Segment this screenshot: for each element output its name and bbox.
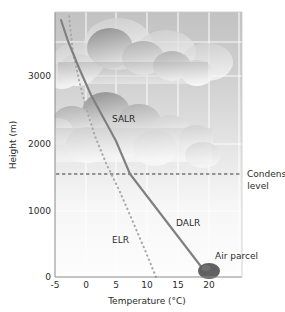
x-tick-10: 10 — [141, 280, 153, 290]
air-parcel-label: Air parcel — [215, 251, 258, 261]
condensation-label-line1: Condensation — [247, 169, 285, 179]
y-tick-2000: 2000 — [28, 139, 51, 149]
x-tick-0: 0 — [83, 280, 89, 290]
salr-label: SALR — [112, 114, 135, 124]
x-axis-title: Temperature (°C) — [107, 296, 186, 306]
lapse-rate-chart: 3000 2000 1000 0 -5 0 5 10 15 20 Tempera… — [0, 0, 285, 312]
elr-label: ELR — [112, 235, 129, 245]
x-tick-5: 5 — [113, 280, 119, 290]
x-tick-labels: -5 0 5 10 15 20 — [51, 280, 215, 290]
condensation-label-line2: level — [247, 181, 268, 191]
y-tick-3000: 3000 — [28, 71, 51, 81]
dalr-label: DALR — [176, 218, 200, 228]
y-axis-title: Height (m) — [8, 121, 18, 169]
y-tick-1000: 1000 — [28, 206, 51, 216]
x-tick-minus5: -5 — [51, 280, 60, 290]
y-tick-labels: 3000 2000 1000 0 — [28, 71, 51, 282]
x-tick-15: 15 — [172, 280, 183, 290]
x-tick-20: 20 — [203, 280, 215, 290]
